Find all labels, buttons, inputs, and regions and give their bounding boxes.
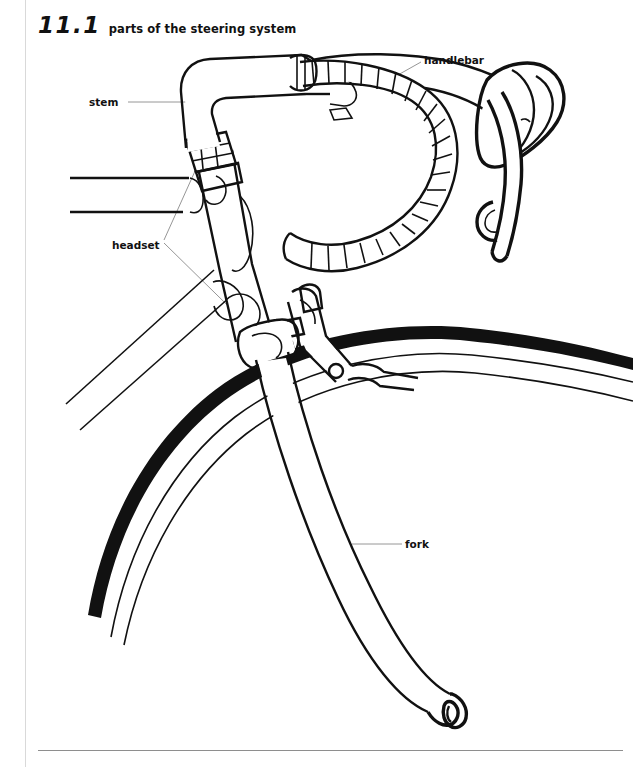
- brake-lever: [477, 63, 564, 261]
- rim-outer-line: [111, 354, 633, 637]
- tape-wrap-line: [361, 64, 362, 86]
- leader-lines: [128, 62, 421, 544]
- diagram-page: 11.1 parts of the steering system: [0, 0, 633, 767]
- down-tube-upper-line: [66, 270, 214, 404]
- brake-lever-hook-inner: [485, 210, 496, 232]
- fork-blade-fill: [258, 358, 440, 706]
- tape-wrap-line: [328, 246, 329, 270]
- bicycle-steering-diagram: [0, 0, 633, 767]
- label-handlebar: handlebar: [424, 54, 484, 66]
- label-fork: fork: [405, 538, 429, 550]
- tape-wrap-line: [311, 243, 312, 268]
- fork-dropout-slot: [447, 706, 451, 722]
- frame-tubes: [66, 178, 230, 430]
- label-stem: stem: [89, 96, 118, 108]
- caliper-cross-arm-lower: [348, 378, 414, 390]
- tape-wrap-line: [328, 61, 329, 84]
- brake-lever-hook: [477, 202, 497, 240]
- stem-clamp-wedge: [330, 108, 352, 120]
- label-headset: headset: [112, 239, 160, 251]
- leader-line-headset-upper: [164, 160, 200, 240]
- handlebar: [284, 54, 512, 271]
- head-tube: [190, 150, 272, 342]
